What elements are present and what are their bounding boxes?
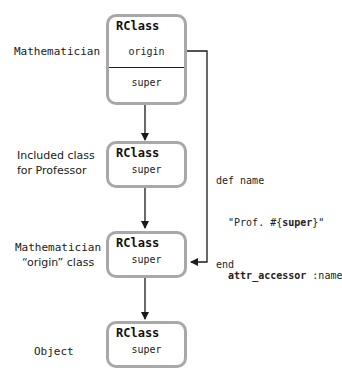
code-text: }": [312, 217, 324, 228]
label-mathematician: Mathematician: [14, 44, 100, 59]
box-divider: [109, 67, 184, 68]
rclass-box-included-class: RClass super: [106, 141, 187, 188]
label-line: for Professor: [17, 163, 95, 178]
label-object: Object: [34, 344, 74, 359]
rclass-title: RClass: [116, 236, 159, 250]
rclass-title: RClass: [116, 19, 159, 33]
field-origin: origin: [109, 46, 184, 57]
code-line: "Prof. #{super}": [216, 216, 324, 230]
field-super: super: [109, 164, 184, 175]
code-line: def name: [216, 174, 324, 188]
field-super: super: [109, 77, 184, 88]
attr-accessor-code: attr_accessor :name: [216, 255, 342, 283]
label-line: “origin” class: [15, 255, 101, 270]
code-keyword: super: [282, 217, 312, 228]
label-included-class: Included class for Professor: [17, 148, 95, 178]
rclass-box-mathematician-origin: RClass super: [106, 231, 187, 278]
rclass-box-object: RClass super: [106, 321, 187, 368]
label-mathematician-origin: Mathematician “origin” class: [15, 240, 101, 270]
field-super: super: [109, 254, 184, 265]
code-text: :name: [306, 270, 342, 281]
field-super: super: [109, 344, 184, 355]
label-line: Included class: [17, 148, 95, 163]
code-keyword: attr_accessor: [228, 270, 306, 281]
code-text: "Prof. #{: [216, 217, 282, 228]
rclass-title: RClass: [116, 146, 159, 160]
rclass-title: RClass: [116, 326, 159, 340]
rclass-box-mathematician: RClass origin super: [106, 14, 187, 105]
label-line: Mathematician: [15, 240, 101, 255]
